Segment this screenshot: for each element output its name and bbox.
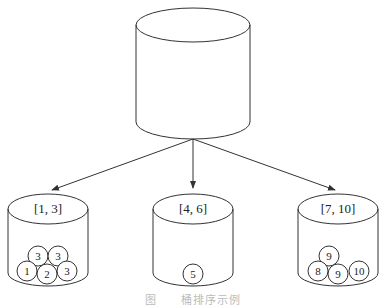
ball: 8 xyxy=(308,261,328,281)
svg-text:2: 2 xyxy=(44,268,50,280)
svg-text:3: 3 xyxy=(55,250,61,262)
svg-text:3: 3 xyxy=(35,250,41,262)
svg-text:10: 10 xyxy=(354,265,366,277)
ball: 1 xyxy=(17,261,37,281)
ball: 2 xyxy=(37,264,57,284)
source-cylinder xyxy=(136,8,250,139)
bucket-range-label: [1, 3] xyxy=(34,201,62,216)
svg-text:9: 9 xyxy=(335,268,341,280)
figure-caption: 图 桶排序示例 xyxy=(0,291,385,307)
ball: 10 xyxy=(349,261,369,281)
arrow-to-bucket-3 xyxy=(193,139,335,190)
arrow-to-bucket-1 xyxy=(52,139,193,190)
edges xyxy=(52,139,335,190)
svg-text:9: 9 xyxy=(326,250,332,262)
bucket-range-label: [4, 6] xyxy=(179,201,207,216)
ball: 3 xyxy=(57,261,77,281)
bucket-1: [1, 3] 3 3 1 2 3 xyxy=(8,194,88,286)
bucket-3: [7, 10] 9 8 9 10 xyxy=(298,194,378,286)
svg-text:8: 8 xyxy=(315,265,321,277)
svg-text:5: 5 xyxy=(190,268,196,280)
ball: 5 xyxy=(183,264,203,284)
svg-text:1: 1 xyxy=(24,265,30,277)
ball: 9 xyxy=(328,264,348,284)
svg-text:3: 3 xyxy=(64,265,70,277)
bucket-2: [4, 6] 5 xyxy=(153,194,233,286)
bucket-range-label: [7, 10] xyxy=(321,201,356,216)
